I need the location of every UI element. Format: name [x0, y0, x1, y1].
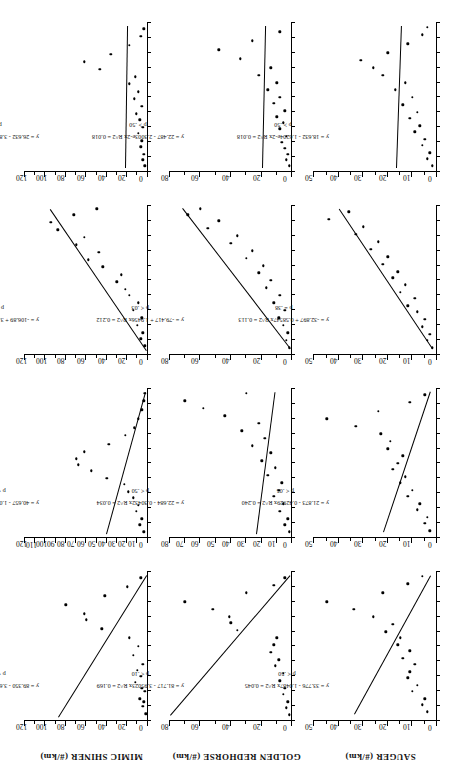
data-point	[285, 706, 288, 709]
y-axis-tick-label: 60	[77, 723, 85, 732]
panel-annotation: y = 40.657 - 1.0879x R^2 = 0.191p < .10	[0, 486, 39, 507]
y-axis-minor-tick	[136, 171, 137, 175]
data-point	[355, 425, 358, 428]
y-axis-tick-label: 50	[88, 540, 96, 549]
data-point	[267, 89, 270, 92]
x-axis-tick	[147, 537, 151, 538]
data-point	[141, 331, 144, 334]
y-axis-minor-tick	[276, 171, 277, 175]
x-axis-tick	[436, 309, 440, 310]
regression-line	[58, 575, 147, 717]
panel-annotation: y = 26.632 - 3.8379e-2x R^2 = 0.011p > .…	[0, 120, 39, 141]
data-point	[257, 272, 260, 275]
data-point	[399, 636, 402, 639]
data-point	[377, 410, 380, 413]
y-axis-tick-label: 0	[428, 723, 432, 732]
y-axis-minor-tick	[184, 720, 185, 724]
y-axis-tick	[387, 537, 388, 543]
x-axis-tick	[147, 631, 151, 632]
y-axis-tick-label: 20	[118, 357, 126, 366]
y-axis-tick-label: 60	[191, 357, 199, 366]
y-axis-tick-label: 60	[191, 174, 199, 183]
data-point	[419, 502, 422, 505]
x-axis-tick	[291, 463, 295, 464]
x-axis-tick	[436, 720, 440, 721]
plot-area: 01020304050	[314, 206, 437, 355]
data-point	[138, 523, 141, 526]
y-axis-tick	[126, 720, 127, 726]
x-axis-tick	[436, 52, 440, 53]
x-axis-tick	[436, 418, 440, 419]
x-axis-line	[147, 23, 148, 172]
x-axis-line	[147, 572, 148, 721]
y-axis-tick	[85, 537, 86, 543]
regression-equation: y = 18.632 - 1.6204e-2x R^2 = 0.018	[237, 132, 329, 141]
x-axis-tick	[291, 354, 295, 355]
data-point	[280, 482, 283, 485]
data-point	[116, 281, 119, 284]
data-point	[406, 43, 409, 46]
x-axis-tick	[436, 265, 440, 266]
panel-annotation: y = 18.632 - 1.6204e-2x R^2 = 0.018p > .…	[237, 120, 329, 141]
y-axis-tick	[169, 354, 170, 360]
data-point	[409, 401, 412, 404]
x-axis-tick	[147, 82, 151, 83]
x-axis-tick	[436, 388, 440, 389]
y-axis-tick-label: 120	[16, 357, 27, 366]
p-value-label: p < .50	[0, 669, 39, 678]
data-point	[411, 489, 414, 492]
y-axis-tick-label: 30	[354, 723, 362, 732]
data-point	[257, 422, 260, 425]
data-point	[224, 415, 227, 418]
x-axis-tick	[147, 22, 151, 23]
data-point	[276, 116, 279, 119]
x-axis-tick	[436, 463, 440, 464]
data-point	[401, 104, 404, 107]
x-axis-tick	[291, 339, 295, 340]
x-axis-tick	[436, 433, 440, 434]
y-axis-tick-label: 70	[176, 540, 184, 549]
y-axis-minor-tick	[399, 354, 400, 358]
x-axis-tick	[436, 280, 440, 281]
y-axis-tick	[184, 537, 185, 543]
y-axis-minor-tick	[276, 354, 277, 358]
data-point	[406, 677, 409, 680]
x-axis-tick	[147, 705, 151, 706]
y-axis-minor-tick	[350, 720, 351, 724]
data-point	[280, 141, 283, 144]
data-point	[419, 125, 422, 128]
x-axis-tick	[291, 82, 295, 83]
x-axis-tick	[436, 631, 440, 632]
data-point	[426, 26, 429, 29]
scatter-panel: 01020304050y = -32.897 + 0.58547x R^2 = …	[308, 202, 453, 381]
y-axis-minor-tick	[184, 171, 185, 175]
y-axis-tick-label: 10	[403, 174, 411, 183]
data-point	[416, 111, 419, 114]
data-point	[411, 690, 414, 693]
panel-annotation: y = -32.897 + 0.58547x R^2 = 0.113p = .3…	[238, 303, 329, 324]
data-point	[285, 159, 288, 162]
data-point	[396, 270, 399, 273]
scatter-panel: 020406080y = -79.417 + 1.9456x R^2 = 0.2…	[164, 202, 309, 381]
plot-area: 0102030405060708090100110120	[25, 389, 148, 538]
data-point	[137, 645, 140, 648]
data-point	[360, 59, 363, 62]
data-point	[207, 227, 210, 230]
y-axis-tick-label: 0	[283, 723, 287, 732]
p-value-label: p < .03	[96, 303, 184, 312]
x-axis-line	[436, 206, 437, 355]
x-axis-tick	[147, 294, 151, 295]
x-axis-tick	[436, 537, 440, 538]
x-axis-tick	[291, 171, 295, 172]
regression-line	[396, 26, 402, 168]
x-axis-tick	[291, 646, 295, 647]
row-axis-title: GOLDEN REDHORSE (#/km)	[164, 749, 309, 765]
x-axis-tick	[147, 448, 151, 449]
data-point	[142, 531, 145, 534]
data-point	[352, 608, 355, 611]
y-axis-tick-label: 100	[36, 357, 47, 366]
regression-line	[339, 208, 433, 349]
y-axis-tick-label: 40	[222, 723, 230, 732]
x-axis-tick	[291, 448, 295, 449]
x-axis-line	[291, 206, 292, 355]
